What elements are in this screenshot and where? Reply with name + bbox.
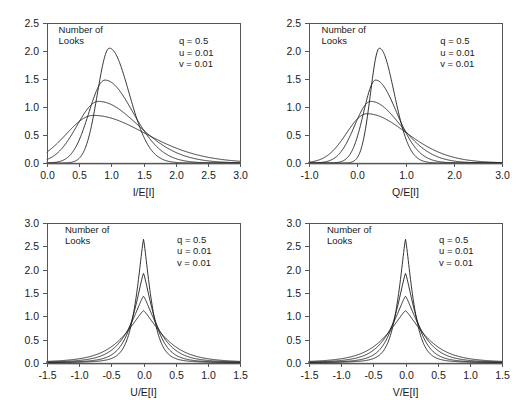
- y-tick-label: 1.0: [24, 101, 39, 113]
- panel-u-x-axis-title: U/E[I]: [130, 386, 156, 398]
- y-tick-label: 0.0: [24, 157, 39, 169]
- panel-v-curves: [309, 239, 502, 362]
- panel-v-y-axis: 0.00.51.01.52.02.53.0: [286, 217, 309, 369]
- panel-u-x-axis: -1.5-1.0-0.50.00.51.01.5: [38, 363, 247, 381]
- y-tick-label: 1.0: [24, 310, 39, 322]
- number-of-looks-label-line: Looks: [59, 35, 85, 46]
- panel-q-x-axis: -1.00.01.02.03.0: [300, 163, 509, 181]
- parameter-block-line: u = 0.01: [439, 245, 474, 256]
- y-tick-label: 2.0: [24, 45, 39, 57]
- x-tick-label: 0.0: [40, 169, 55, 181]
- curve-looks-4: [309, 80, 502, 163]
- x-tick-label: -1.0: [332, 369, 350, 381]
- panel-u-y-axis: 0.00.51.01.52.02.53.0: [24, 217, 47, 369]
- y-tick-label: 0.5: [24, 334, 39, 346]
- y-tick-label: 2.5: [286, 17, 301, 29]
- panel-u-curves: [47, 239, 240, 362]
- parameter-block: q = 0.5u = 0.01v = 0.01: [177, 234, 212, 268]
- y-tick-label: 1.5: [24, 287, 39, 299]
- curve-looks-8: [47, 239, 240, 362]
- curve-looks-1: [47, 115, 240, 161]
- x-tick-label: 0.5: [72, 169, 87, 181]
- y-tick-label: 1.5: [286, 287, 301, 299]
- parameter-block-line: q = 0.5: [177, 234, 206, 245]
- parameter-block-line: v = 0.01: [440, 58, 474, 69]
- y-tick-label: 0.5: [286, 129, 301, 141]
- x-tick-label: 1.0: [463, 369, 478, 381]
- y-tick-label: 2.0: [286, 45, 301, 57]
- x-tick-label: 0.0: [350, 169, 365, 181]
- y-tick-label: 1.0: [286, 101, 301, 113]
- x-tick-label: 1.5: [495, 369, 510, 381]
- number-of-looks-label: Number ofLooks: [59, 24, 104, 47]
- x-tick-label: 2.0: [169, 169, 184, 181]
- number-of-looks-label-line: Number of: [65, 224, 110, 235]
- number-of-looks-label-line: Number of: [59, 24, 104, 35]
- parameter-block-line: v = 0.01: [179, 58, 213, 69]
- number-of-looks-label: Number ofLooks: [65, 224, 110, 247]
- panel-q-y-axis: 0.00.51.01.52.02.5: [286, 17, 309, 169]
- curve-looks-4: [47, 80, 240, 163]
- curve-looks-1: [47, 311, 240, 362]
- x-tick-label: 0.0: [399, 369, 414, 381]
- x-tick-label: 0.5: [169, 369, 184, 381]
- x-tick-label: 1.5: [137, 169, 152, 181]
- panel-u-canvas: -1.5-1.0-0.50.00.51.01.50.00.51.01.52.02…: [0, 200, 262, 400]
- parameter-block-line: u = 0.01: [440, 47, 475, 58]
- number-of-looks-label-line: Looks: [65, 235, 91, 246]
- y-tick-label: 2.0: [24, 264, 39, 276]
- panel-v-x-axis-title: V/E[I]: [393, 386, 419, 398]
- y-tick-label: 1.0: [286, 310, 301, 322]
- x-tick-label: 2.0: [447, 169, 462, 181]
- parameter-block-line: u = 0.01: [179, 47, 214, 58]
- x-tick-label: -0.5: [364, 369, 382, 381]
- y-tick-label: 3.0: [286, 217, 301, 229]
- number-of-looks-label: Number ofLooks: [322, 24, 367, 47]
- panel-i-x-axis-title: I/E[I]: [133, 186, 155, 198]
- y-tick-label: 2.0: [286, 264, 301, 276]
- y-tick-label: 1.5: [286, 73, 301, 85]
- y-tick-label: 0.0: [286, 157, 301, 169]
- number-of-looks-label: Number ofLooks: [327, 224, 372, 247]
- panel-v-canvas: -1.5-1.0-0.50.00.51.01.50.00.51.01.52.02…: [262, 200, 524, 400]
- x-tick-label: 1.0: [104, 169, 119, 181]
- y-tick-label: 2.5: [24, 17, 39, 29]
- parameter-block: q = 0.5u = 0.01v = 0.01: [440, 35, 475, 69]
- x-tick-label: 3.0: [495, 169, 510, 181]
- y-tick-label: 0.5: [286, 334, 301, 346]
- y-tick-label: 0.5: [24, 129, 39, 141]
- curve-looks-2: [47, 296, 240, 362]
- x-tick-label: -1.0: [70, 369, 88, 381]
- x-tick-label: -1.5: [38, 369, 56, 381]
- parameter-block: q = 0.5u = 0.01v = 0.01: [439, 234, 474, 268]
- panel-v: -1.5-1.0-0.50.00.51.01.50.00.51.01.52.02…: [262, 200, 524, 400]
- panel-u: -1.5-1.0-0.50.00.51.01.50.00.51.01.52.02…: [0, 200, 262, 400]
- panel-q: -1.00.01.02.03.00.00.51.01.52.02.5Q/E[I]…: [262, 0, 524, 200]
- x-tick-label: -1.0: [300, 169, 318, 181]
- x-tick-label: 1.0: [399, 169, 414, 181]
- y-tick-label: 2.5: [286, 240, 301, 252]
- x-tick-label: 3.0: [233, 169, 248, 181]
- panel-q-x-axis-title: Q/E[I]: [392, 186, 419, 198]
- number-of-looks-label-line: Looks: [322, 35, 348, 46]
- panel-i-x-axis: 0.00.51.01.52.02.53.0: [40, 163, 248, 181]
- panel-i-canvas: 0.00.51.01.52.02.53.00.00.51.01.52.02.5I…: [0, 0, 262, 200]
- x-tick-label: -1.5: [300, 369, 318, 381]
- number-of-looks-label-line: Number of: [322, 24, 367, 35]
- parameter-block: q = 0.5u = 0.01v = 0.01: [179, 35, 214, 69]
- parameter-block-line: v = 0.01: [177, 257, 211, 268]
- y-tick-label: 2.5: [24, 240, 39, 252]
- number-of-looks-label-line: Looks: [327, 235, 353, 246]
- x-tick-label: -0.5: [102, 369, 120, 381]
- parameter-block-line: q = 0.5: [179, 35, 208, 46]
- number-of-looks-label-line: Number of: [327, 224, 372, 235]
- parameter-block-line: q = 0.5: [439, 234, 468, 245]
- x-tick-label: 1.5: [233, 369, 248, 381]
- y-tick-label: 0.0: [286, 357, 301, 369]
- panel-v-x-axis: -1.5-1.0-0.50.00.51.01.5: [300, 363, 509, 381]
- x-tick-label: 2.5: [201, 169, 216, 181]
- x-tick-label: 1.0: [201, 369, 216, 381]
- panel-i-y-axis: 0.00.51.01.52.02.5: [24, 17, 47, 169]
- curve-looks-1: [309, 311, 502, 362]
- y-tick-label: 1.5: [24, 73, 39, 85]
